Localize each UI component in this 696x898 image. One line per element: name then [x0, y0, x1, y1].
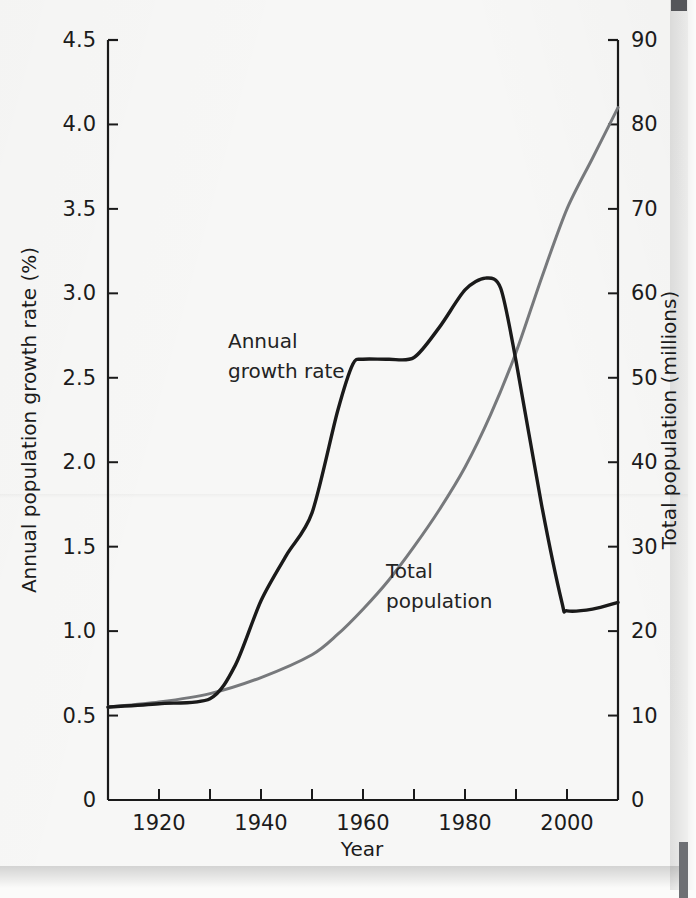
left-tick-label: 0	[83, 788, 96, 812]
x-axis-title: Year	[340, 837, 384, 861]
annotation-growth-line1: Annual	[228, 329, 298, 353]
x-tick-label: 2000	[540, 811, 593, 835]
left-tick-label: 3.0	[63, 281, 96, 305]
annotation-annual-growth-rate: Annual growth rate	[228, 329, 345, 383]
x-tick-label: 1940	[234, 811, 287, 835]
annotation-growth-line2: growth rate	[228, 359, 345, 383]
right-tick-label: 50	[631, 366, 658, 390]
right-tick-label: 30	[631, 535, 658, 559]
axis-right	[608, 40, 618, 800]
right-tick-label: 70	[631, 197, 658, 221]
right-tick-label: 90	[631, 28, 658, 52]
left-tick-label: 3.5	[63, 197, 96, 221]
x-tick-label: 1980	[438, 811, 491, 835]
left-tick-label: 1.0	[63, 619, 96, 643]
annotation-population-line1: Total	[385, 559, 433, 583]
y-left-axis-title: Annual population growth rate (%)	[17, 247, 41, 593]
right-tick-label: 10	[631, 704, 658, 728]
right-axis-ticks: 0102030405060708090	[608, 28, 658, 812]
scanned-page: 00.51.01.52.02.53.03.54.04.5 01020304050…	[0, 0, 696, 898]
left-tick-label: 4.5	[63, 28, 96, 52]
y-right-axis-title: Total population (millions)	[657, 291, 681, 551]
right-tick-label: 60	[631, 281, 658, 305]
right-tick-label: 40	[631, 450, 658, 474]
left-tick-label: 2.5	[63, 366, 96, 390]
annotation-total-population: Total population	[385, 559, 492, 613]
x-tick-label: 1960	[336, 811, 389, 835]
left-tick-label: 0.5	[63, 704, 96, 728]
left-tick-label: 4.0	[63, 112, 96, 136]
axis-left	[108, 40, 118, 800]
left-tick-label: 2.0	[63, 450, 96, 474]
x-axis-ticks: 19201940196019802000	[108, 789, 618, 835]
x-tick-label: 1920	[132, 811, 185, 835]
left-tick-label: 1.5	[63, 535, 96, 559]
right-tick-label: 0	[631, 788, 644, 812]
right-tick-label: 20	[631, 619, 658, 643]
annual-growth-rate-line	[108, 278, 618, 707]
population-growth-chart: 00.51.01.52.02.53.03.54.04.5 01020304050…	[0, 0, 696, 898]
right-tick-label: 80	[631, 112, 658, 136]
total-population-line	[108, 108, 618, 708]
annotation-population-line2: population	[386, 589, 492, 613]
left-axis-ticks: 00.51.01.52.02.53.03.54.04.5	[63, 28, 118, 812]
